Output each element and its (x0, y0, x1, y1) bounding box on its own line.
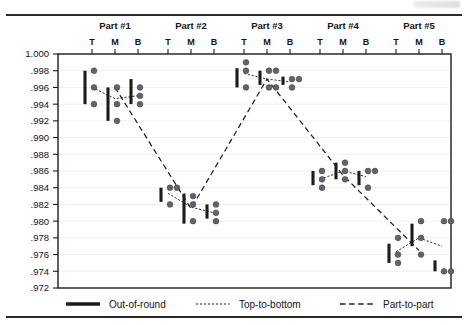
y-axis-tick-label: .996 (31, 82, 50, 93)
data-point (319, 176, 325, 182)
data-point (319, 168, 325, 174)
figure-page: 1.000.998.996.994.992.990.988.986.984.98… (0, 0, 468, 325)
data-point (342, 168, 348, 174)
legend-entry-label: Top-to-bottom (239, 299, 301, 310)
top-to-bottom-series (92, 73, 442, 251)
y-axis-tick-label: .976 (31, 249, 50, 260)
position-sublabel: B (439, 37, 446, 47)
data-points-group (91, 59, 454, 274)
y-axis-tick-label: .998 (31, 65, 50, 76)
data-point (273, 85, 279, 91)
data-point (167, 185, 173, 191)
data-point (190, 218, 196, 224)
data-point (91, 101, 97, 107)
position-sublabels-group: TMBTMBTMBTMBTMB (89, 37, 446, 47)
data-point (365, 168, 371, 174)
position-sublabel: T (165, 37, 171, 47)
data-point (190, 202, 196, 208)
part-header-label: Part #4 (327, 20, 359, 31)
bottom-rule (6, 316, 462, 318)
y-axis-tick-label: .994 (31, 99, 50, 110)
y-axis-tick-label: .982 (31, 199, 50, 210)
position-sublabel: B (287, 37, 294, 47)
y-axis-ticks-group (53, 54, 58, 288)
position-sublabel: T (317, 37, 323, 47)
position-sublabel: M (111, 37, 119, 47)
data-point (243, 85, 249, 91)
data-point (395, 235, 401, 241)
part-headers-group: Part #1Part #2Part #3Part #4Part #5 (99, 20, 435, 31)
data-point (319, 185, 325, 191)
data-point (243, 59, 249, 65)
legend-entry-label: Out-of-round (109, 299, 166, 310)
data-point (213, 210, 219, 216)
data-point (114, 101, 120, 107)
position-sublabel: B (363, 37, 370, 47)
data-point (418, 235, 424, 241)
position-sublabel: M (187, 37, 195, 47)
data-point (137, 85, 143, 91)
y-axis-tick-label: .984 (31, 182, 50, 193)
data-point (441, 218, 447, 224)
data-point (448, 268, 454, 274)
data-point (91, 85, 97, 91)
part-to-part-series (115, 79, 419, 250)
data-point (448, 218, 454, 224)
data-point (395, 252, 401, 258)
data-point (342, 176, 348, 182)
data-point (137, 93, 143, 99)
y-axis-labels-group: 1.000.998.996.994.992.990.988.986.984.98… (25, 48, 49, 293)
data-point (418, 252, 424, 258)
data-point (114, 85, 120, 91)
data-point (167, 202, 173, 208)
data-point (174, 185, 180, 191)
y-axis-tick-label: .974 (31, 266, 50, 277)
data-point (91, 68, 97, 74)
y-axis-tick-label: .972 (31, 282, 50, 293)
data-point (243, 68, 249, 74)
data-point (273, 68, 279, 74)
y-axis-tick-label: .988 (31, 149, 50, 160)
legend-entry-label: Part-to-part (383, 299, 434, 310)
part-header-label: Part #1 (99, 20, 131, 31)
measurement-scatter-chart: 1.000.998.996.994.992.990.988.986.984.98… (0, 16, 468, 316)
part-to-part-line (115, 79, 419, 250)
data-point (441, 268, 447, 274)
data-point (190, 193, 196, 199)
data-point (137, 101, 143, 107)
position-sublabel: T (241, 37, 247, 47)
data-point (289, 76, 295, 82)
position-sublabel: B (135, 37, 142, 47)
data-point (266, 68, 272, 74)
data-point (213, 202, 219, 208)
data-point (213, 218, 219, 224)
data-point (266, 85, 272, 91)
position-sublabel: B (211, 37, 218, 47)
data-point (342, 160, 348, 166)
part-header-label: Part #5 (403, 20, 435, 31)
x-axis-ticks-group (92, 49, 442, 54)
y-axis-tick-label: .986 (31, 165, 50, 176)
chart-legend: Out-of-roundTop-to-bottomPart-to-part (66, 299, 434, 310)
position-sublabel: M (415, 37, 423, 47)
y-axis-tick-label: .992 (31, 115, 50, 126)
y-axis-tick-label: .990 (31, 132, 50, 143)
y-axis-tick-label: .980 (31, 216, 50, 227)
position-sublabel: T (393, 37, 399, 47)
out-of-round-series (85, 68, 435, 271)
data-point (418, 218, 424, 224)
y-axis-tick-label: .978 (31, 232, 50, 243)
data-point (296, 76, 302, 82)
data-point (395, 260, 401, 266)
data-point (372, 168, 378, 174)
position-sublabel: M (263, 37, 271, 47)
data-point (114, 118, 120, 124)
part-header-label: Part #2 (175, 20, 207, 31)
data-point (289, 85, 295, 91)
y-axis-tick-label: 1.000 (25, 48, 49, 59)
page-corner-artifact (414, 1, 460, 8)
part-header-label: Part #3 (251, 20, 283, 31)
position-sublabel: M (339, 37, 347, 47)
data-point (365, 185, 371, 191)
position-sublabel: T (89, 37, 95, 47)
